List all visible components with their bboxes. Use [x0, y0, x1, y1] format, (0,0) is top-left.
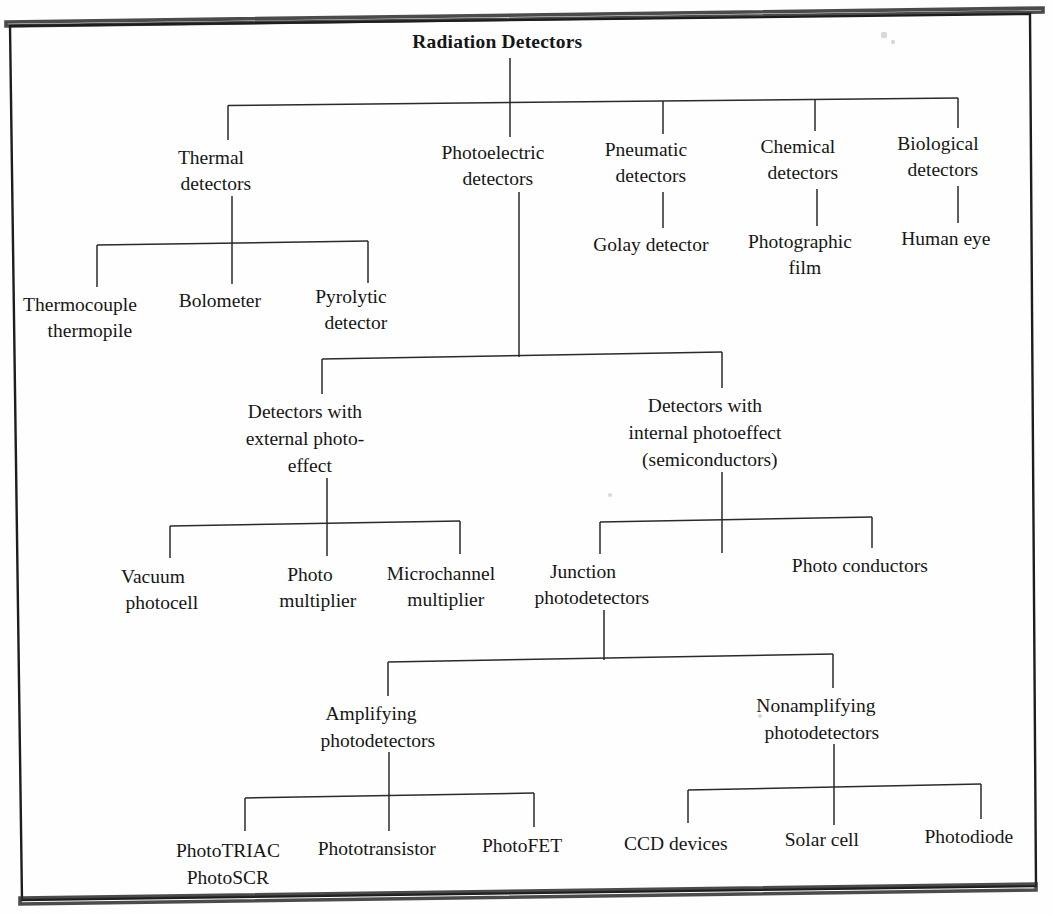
node-line: multiplier: [407, 589, 484, 610]
node-line: Thermocouple: [23, 294, 137, 315]
node-line: Nonamplifying: [756, 695, 875, 716]
node-thermocouple-thermopile: Thermocouple thermopile: [23, 294, 171, 341]
node-line: Microchannel: [387, 563, 496, 584]
node-line: internal photoeffect: [629, 422, 782, 443]
node-line: Vacuum: [121, 566, 185, 587]
node-line: detectors: [908, 159, 978, 180]
node-radiation-detectors: Radiation Detectors: [412, 31, 607, 52]
node-line: Bolometer: [179, 290, 262, 311]
node-junction-photodetectors: Junction photodetectors: [534, 561, 673, 608]
node-line: Detectors with: [248, 401, 363, 422]
connector-junction-children: [388, 610, 833, 696]
node-photo-conductors: Photo conductors: [792, 555, 952, 576]
node-line: detectors: [616, 165, 686, 186]
node-internal-photoeffect: Detectors with internal photoeffect (sem…: [629, 395, 816, 471]
node-line: PhotoFET: [482, 835, 562, 856]
node-line: Chemical: [761, 136, 836, 157]
node-line: detectors: [181, 173, 251, 194]
node-line: PhotoSCR: [187, 867, 269, 888]
node-phototransistor: Phototransistor: [318, 838, 460, 859]
node-line: Photodiode: [924, 826, 1013, 847]
node-microchannel-multiplier: Microchannel multiplier: [387, 563, 529, 610]
node-line: Detectors with: [648, 395, 763, 416]
node-photodiode: Photodiode: [924, 826, 1037, 847]
node-line: multiplier: [279, 590, 356, 611]
connector-nonamplifying-children: [688, 744, 981, 825]
node-line: thermopile: [48, 320, 132, 341]
node-line: detectors: [768, 162, 838, 183]
connector-internal-children: [600, 472, 872, 554]
node-line: Solar cell: [785, 829, 860, 850]
node-line: PhotoTRIAC: [176, 840, 280, 861]
node-photofet: PhotoFET: [482, 835, 586, 856]
radiation-detectors-tree-diagram: Radiation Detectors Thermal detectors Ph…: [0, 0, 1053, 915]
node-line: Amplifying: [325, 703, 416, 724]
node-line: detectors: [463, 168, 533, 189]
node-photo-multiplier: Photo multiplier: [279, 564, 380, 611]
node-line: Radiation Detectors: [412, 31, 582, 52]
node-solar-cell: Solar cell: [785, 829, 884, 850]
node-thermal-detectors: Thermal detectors: [178, 147, 278, 194]
node-line: external photo-: [246, 428, 365, 449]
node-golay-detector: Golay detector: [593, 234, 733, 255]
connector-external-children: [170, 478, 460, 558]
node-line: Photo: [287, 564, 333, 585]
node-biological-detectors: Biological detectors: [897, 133, 1012, 180]
node-photoelectric-detectors: Photoelectric detectors: [441, 142, 578, 189]
node-line: CCD devices: [624, 833, 727, 854]
node-line: photodetectors: [764, 722, 879, 743]
node-vacuum-photocell: Vacuum photocell: [121, 566, 222, 613]
node-human-eye: Human eye: [901, 228, 1015, 249]
node-line: Phototransistor: [318, 838, 437, 859]
connector-thermal-children: [97, 196, 368, 287]
node-chemical-detectors: Chemical detectors: [761, 136, 870, 183]
connector-amplifying-children: [245, 752, 534, 831]
node-line: Biological: [897, 133, 979, 154]
node-line: photocell: [126, 592, 199, 613]
node-line: Pyrolytic: [315, 286, 387, 307]
scan-artifacts: [608, 32, 895, 718]
node-line: Photoelectric: [441, 142, 544, 163]
node-line: Golay detector: [593, 234, 709, 255]
node-line: Junction: [550, 561, 616, 582]
node-line: Pneumatic: [605, 139, 688, 160]
node-line: effect: [288, 455, 333, 476]
node-line: photodetectors: [320, 730, 435, 751]
node-ccd-devices: CCD devices: [624, 833, 752, 854]
node-amplifying-photodetectors: Amplifying photodetectors: [320, 703, 459, 751]
node-line: film: [789, 257, 822, 278]
node-line: photodetectors: [534, 587, 649, 608]
diagram-page: Radiation Detectors Thermal detectors Ph…: [0, 0, 1053, 915]
node-line: Photographic: [748, 231, 852, 252]
node-nonamplifying-photodetectors: Nonamplifying photodetectors: [756, 695, 909, 743]
node-pneumatic-detectors: Pneumatic detectors: [605, 139, 721, 186]
node-bolometer: Bolometer: [179, 290, 286, 311]
node-line: detector: [324, 312, 387, 333]
node-line: (semiconductors): [642, 449, 777, 471]
node-line: Human eye: [901, 228, 990, 249]
connector-root-to-level1: [228, 58, 958, 140]
node-phototriac-photoscr: PhotoTRIAC PhotoSCR: [176, 840, 314, 888]
node-line: Photo conductors: [792, 555, 928, 576]
node-line: Thermal: [178, 147, 245, 168]
node-pyrolytic-detector: Pyrolytic detector: [315, 286, 421, 333]
node-external-photoeffect: Detectors with external photo- effect: [246, 401, 399, 476]
node-photographic-film: Photographic film: [748, 231, 886, 278]
